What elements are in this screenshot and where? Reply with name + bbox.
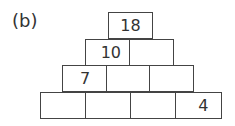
pyramid-row-2: 10 xyxy=(85,39,174,66)
pyramid-cell: 18 xyxy=(108,12,153,39)
figure-label: (b) xyxy=(12,10,37,31)
pyramid-cell xyxy=(40,92,87,119)
pyramid-cell xyxy=(85,92,132,119)
pyramid-row-4: 4 xyxy=(40,92,222,119)
pyramid-cell xyxy=(106,65,151,92)
pyramid-cell: 4 xyxy=(175,92,222,119)
pyramid-cell: 7 xyxy=(62,65,107,92)
pyramid-cell xyxy=(129,39,174,66)
pyramid-cell xyxy=(149,65,194,92)
pyramid-row-1: 18 xyxy=(108,12,153,39)
pyramid-row-3: 7 xyxy=(62,65,194,92)
pyramid-cell xyxy=(130,92,177,119)
pyramid-cell: 10 xyxy=(85,39,130,66)
